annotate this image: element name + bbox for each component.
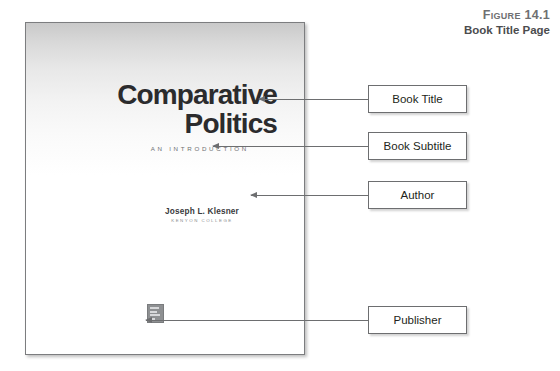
book-title-line-2: Politics (34, 110, 277, 139)
callout-book-title: Book Title (368, 85, 467, 113)
logo-bar-1 (150, 307, 159, 309)
book-title-page: Comparative Politics AN INTRODUCTION Jos… (25, 22, 305, 355)
leader-arrow-book-title (259, 99, 368, 100)
book-author-block: Joseph L. Klesner KENYON COLLEGE (165, 207, 239, 223)
leader-arrow-publisher (146, 320, 368, 321)
leader-arrow-author (251, 195, 368, 196)
figure-number-label: Figure 14.1 (464, 8, 550, 23)
figure-caption: Figure 14.1 Book Title Page (464, 8, 550, 37)
logo-bar-3 (150, 314, 160, 316)
callout-author: Author (368, 181, 467, 209)
figure-title-label: Book Title Page (464, 24, 550, 38)
author-affiliation-text: KENYON COLLEGE (165, 218, 239, 223)
callout-publisher: Publisher (368, 306, 467, 334)
logo-bar-2 (150, 311, 157, 313)
book-title-text: Comparative Politics (34, 81, 277, 138)
book-title-line-1: Comparative (34, 81, 277, 110)
author-name-text: Joseph L. Klesner (165, 207, 239, 216)
leader-arrow-book-subtitle (213, 146, 368, 147)
callout-book-subtitle: Book Subtitle (368, 132, 467, 160)
